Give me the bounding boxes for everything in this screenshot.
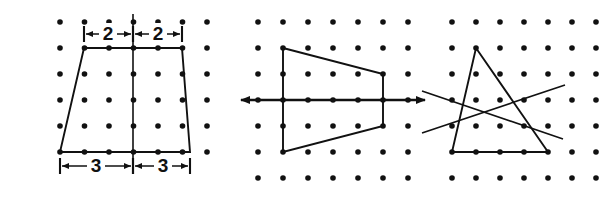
grid-dot (305, 149, 311, 155)
grid-dot (355, 149, 361, 155)
grid-dot (545, 45, 551, 51)
grid-dot (497, 123, 503, 129)
grid-dot (569, 97, 575, 103)
grid-dot (569, 71, 575, 77)
grid-dot (405, 123, 411, 129)
grid-dot (330, 123, 336, 129)
grid-dot (330, 45, 336, 51)
grid-dot (473, 19, 479, 25)
grid-dot (593, 123, 599, 129)
grid-dot (355, 175, 361, 181)
grid-dot (82, 97, 88, 103)
grid-dot (106, 97, 112, 103)
grid-dot (449, 71, 455, 77)
dot-grid-figures-svg: 2233 (0, 0, 605, 201)
grid-dot (155, 97, 161, 103)
grid-dot (255, 175, 261, 181)
grid-dot (180, 123, 186, 129)
grid-dot (305, 123, 311, 129)
grid-dot (204, 97, 210, 103)
grid-dot (180, 19, 186, 25)
grid-dot (380, 149, 386, 155)
grid-dot (204, 123, 210, 129)
grid-dot (204, 149, 210, 155)
grid-dot (405, 149, 411, 155)
grid-dot (355, 19, 361, 25)
grid-dot (180, 97, 186, 103)
grid-dot (569, 19, 575, 25)
grid-dot (449, 19, 455, 25)
grid-dot (204, 45, 210, 51)
grid-dot (569, 175, 575, 181)
grid-dot (497, 45, 503, 51)
grid-dot (405, 71, 411, 77)
grid-dot (593, 149, 599, 155)
grid-dot (255, 19, 261, 25)
grid-dot (473, 123, 479, 129)
grid-dot (545, 123, 551, 129)
grid-dot (545, 175, 551, 181)
grid-dot (497, 71, 503, 77)
grid-dot (593, 71, 599, 77)
grid-dot (57, 71, 63, 77)
grid-dot (593, 19, 599, 25)
grid-dot (330, 71, 336, 77)
grid-dot (405, 19, 411, 25)
grid-dot (255, 71, 261, 77)
grid-dot (521, 45, 527, 51)
grid-dot (473, 97, 479, 103)
figure-sheet: 2233 (0, 0, 605, 201)
grid-dot (497, 175, 503, 181)
grid-dot (497, 19, 503, 25)
grid-dot (82, 19, 88, 25)
grid-dot (305, 45, 311, 51)
grid-dot (473, 71, 479, 77)
grid-dot (82, 123, 88, 129)
grid-dot (593, 175, 599, 181)
grid-dot (106, 71, 112, 77)
grid-dot (355, 123, 361, 129)
grid-dot (497, 97, 503, 103)
grid-dot (405, 45, 411, 51)
grid-dot (380, 175, 386, 181)
grid-dot (355, 71, 361, 77)
grid-dot (255, 45, 261, 51)
grid-dot (57, 123, 63, 129)
grid-dot (255, 123, 261, 129)
grid-dot (545, 71, 551, 77)
grid-dot (355, 45, 361, 51)
grid-dot (330, 149, 336, 155)
grid-dot (155, 123, 161, 129)
grid-dot (204, 71, 210, 77)
grid-dot (106, 123, 112, 129)
grid-dot (57, 19, 63, 25)
grid-dot (521, 19, 527, 25)
grid-dot (82, 71, 88, 77)
grid-dot (57, 45, 63, 51)
grid-dot (569, 123, 575, 129)
grid-dot (330, 175, 336, 181)
grid-dot (473, 175, 479, 181)
grid-dot (405, 175, 411, 181)
grid-dot (545, 97, 551, 103)
grid-dot (255, 149, 261, 155)
grid-dot (57, 97, 63, 103)
dimension-label: 3 (158, 155, 169, 176)
grid-dot (449, 175, 455, 181)
grid-dot (569, 149, 575, 155)
dimension-label: 3 (91, 155, 102, 176)
grid-dot (380, 45, 386, 51)
grid-dot (305, 19, 311, 25)
grid-dot (330, 19, 336, 25)
grid-dot (155, 71, 161, 77)
grid-dot (569, 45, 575, 51)
grid-dot (593, 97, 599, 103)
grid-dot (521, 175, 527, 181)
grid-dot (305, 71, 311, 77)
grid-dot (449, 45, 455, 51)
dimension-label: 2 (153, 23, 164, 44)
dimension-label: 2 (103, 23, 114, 44)
grid-dot (280, 19, 286, 25)
grid-dot (380, 19, 386, 25)
grid-dot (545, 19, 551, 25)
